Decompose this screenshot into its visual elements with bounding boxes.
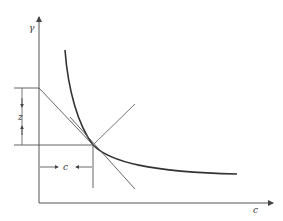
budget-line — [39, 88, 93, 145]
tangent-line — [70, 117, 135, 189]
indifference-curve-diagram: γ c z c — [0, 0, 283, 221]
x-axis-label: c — [253, 205, 258, 215]
z-label: z — [17, 112, 23, 122]
indifference-curve — [65, 50, 237, 174]
y-axis-label: γ — [29, 23, 35, 33]
ray-line — [93, 104, 135, 145]
c-gap-label: c — [63, 162, 68, 172]
